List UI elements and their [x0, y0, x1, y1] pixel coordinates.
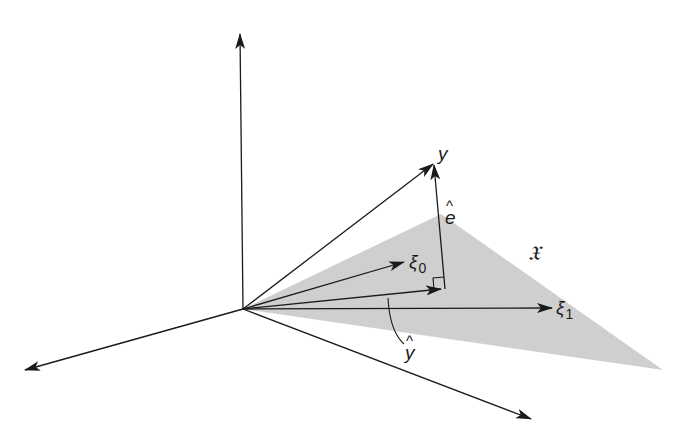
- subspace-plane: [243, 214, 663, 370]
- label-y: y: [438, 144, 448, 163]
- label-e-hat: ^ e: [445, 208, 456, 227]
- label-y-hat: ^ y: [405, 343, 415, 362]
- label-xi0: ξ0: [409, 252, 426, 271]
- hat-accent: ^: [406, 333, 413, 348]
- label-xi0-subscript: 0: [419, 260, 427, 276]
- left-axis: [25, 309, 243, 370]
- label-subspace-X: 𝔛: [528, 243, 540, 263]
- label-subspace-text: 𝔛: [528, 241, 540, 265]
- projection-diagram: [0, 0, 677, 434]
- label-xi0-symbol: ξ: [409, 251, 418, 272]
- vertical-axis: [240, 34, 243, 309]
- label-xi1: ξ1: [556, 298, 573, 317]
- label-xi1-symbol: ξ: [556, 297, 565, 318]
- label-y-text: y: [438, 143, 448, 164]
- label-xi1-subscript: 1: [566, 306, 574, 322]
- hat-accent: ^: [446, 198, 453, 213]
